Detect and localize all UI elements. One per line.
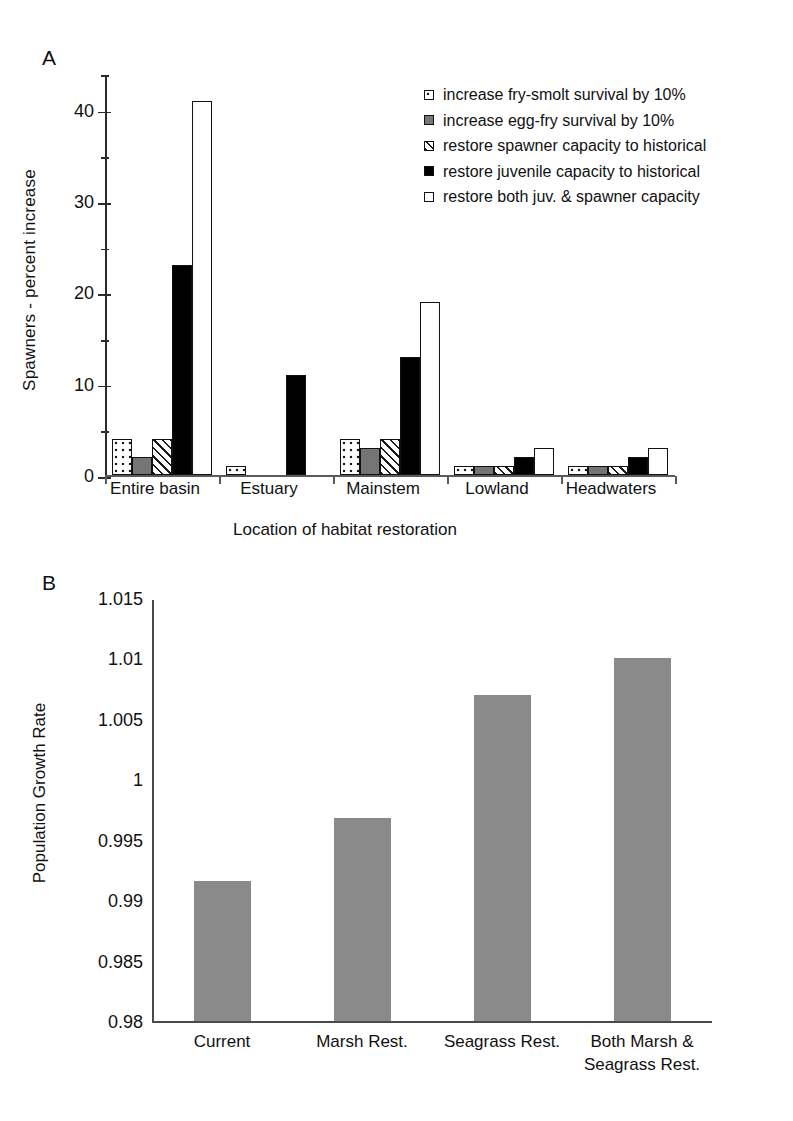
panel-b-category-label: Seagrass Rest. bbox=[427, 1030, 577, 1053]
panel-a-bar bbox=[132, 457, 152, 475]
panel-a-category-label: Entire basin bbox=[98, 479, 212, 499]
panel-a-category-label: Estuary bbox=[212, 479, 326, 499]
panel-b-plot-area: 0.980.9850.990.99511.0051.011.015 Curren… bbox=[152, 600, 712, 1023]
panel-b-bar-group: Seagrass Rest. bbox=[432, 600, 572, 1021]
legend-item: restore both juv. & spawner capacity bbox=[424, 184, 706, 210]
panel-a-bar bbox=[534, 448, 554, 475]
panel-b-category-label-line: Seagrass Rest. bbox=[567, 1053, 717, 1076]
panel-b-category-label-line: Seagrass Rest. bbox=[427, 1030, 577, 1053]
panel-a-y-axis-title: Spawners - percent increase bbox=[20, 115, 40, 445]
panel-b-bar bbox=[334, 818, 391, 1021]
panel-a-bar-group: Estuary bbox=[219, 75, 333, 475]
panel-b-y-tick-label: 1 bbox=[133, 770, 143, 791]
panel-a-bar bbox=[172, 265, 192, 475]
legend-item-label: increase fry-smolt survival by 10% bbox=[443, 82, 686, 108]
legend-item-label: increase egg-fry survival by 10% bbox=[443, 108, 674, 134]
panel-b-y-tick-label: 0.995 bbox=[98, 831, 143, 852]
panel-a-bar bbox=[380, 439, 400, 476]
panel-a-bar bbox=[226, 466, 246, 475]
panel-a-x-axis-line bbox=[105, 475, 675, 477]
panel-a-bar bbox=[152, 439, 172, 476]
panel-b-y-tick-label: 1.005 bbox=[98, 710, 143, 731]
panel-a-bar bbox=[340, 439, 360, 476]
legend-swatch-icon bbox=[424, 192, 434, 202]
panel-b-bar-chart: B Population Growth Rate 0.980.9850.990.… bbox=[0, 548, 793, 1121]
panel-b-y-axis-title: Population Growth Rate bbox=[30, 628, 50, 958]
panel-a-bar bbox=[608, 466, 628, 475]
panel-b-x-axis-line bbox=[152, 1021, 712, 1023]
panel-a-bar bbox=[454, 466, 474, 475]
legend-item-label: restore juvenile capacity to historical bbox=[443, 159, 700, 185]
panel-a-x-axis-title: Location of habitat restoration bbox=[130, 520, 560, 540]
legend-item-label: restore both juv. & spawner capacity bbox=[443, 184, 700, 210]
panel-b-y-tick-label: 0.99 bbox=[108, 891, 143, 912]
panel-b-y-tick-label: 0.985 bbox=[98, 952, 143, 973]
legend-swatch-icon bbox=[424, 115, 434, 125]
panel-a-bar bbox=[628, 457, 648, 475]
panel-a-category-label: Headwaters bbox=[554, 479, 668, 499]
panel-b-category-label-line: Current bbox=[147, 1030, 297, 1053]
legend-item: restore juvenile capacity to historical bbox=[424, 159, 706, 185]
panel-b-category-label-line: Marsh Rest. bbox=[287, 1030, 437, 1053]
panel-b-bar-group: Current bbox=[152, 600, 292, 1021]
panel-b-category-label: Current bbox=[147, 1030, 297, 1053]
panel-a-bar bbox=[514, 457, 534, 475]
panel-a-y-tick-label: 40 bbox=[74, 101, 94, 122]
panel-b-y-tick-label: 1.015 bbox=[98, 589, 143, 610]
legend-item: increase fry-smolt survival by 10% bbox=[424, 82, 706, 108]
panel-a-grouped-bar-chart: A Spawners - percent increase Location o… bbox=[0, 0, 793, 560]
panel-b-category-label: Marsh Rest. bbox=[287, 1030, 437, 1053]
panel-a-bar bbox=[648, 448, 668, 475]
legend-item-label: restore spawner capacity to historical bbox=[443, 133, 706, 159]
panel-b-y-tick-label: 0.98 bbox=[108, 1012, 143, 1033]
panel-a-bar bbox=[568, 466, 588, 475]
panel-a-y-tick-label: 10 bbox=[74, 375, 94, 396]
panel-a-y-tick-label: 30 bbox=[74, 192, 94, 213]
legend-item: increase egg-fry survival by 10% bbox=[424, 108, 706, 134]
panel-a-bar bbox=[588, 466, 608, 475]
panel-a-bar-group: Entire basin bbox=[105, 75, 219, 475]
panel-a-y-tick-label: 20 bbox=[74, 283, 94, 304]
panel-b-category-label-line: Both Marsh & bbox=[567, 1030, 717, 1053]
panel-a-label: A bbox=[42, 46, 56, 70]
panel-a-bar bbox=[286, 375, 306, 476]
panel-a-category-label: Mainstem bbox=[326, 479, 440, 499]
panel-a-bar bbox=[112, 439, 132, 476]
legend-swatch-icon bbox=[424, 166, 434, 176]
panel-b-bar bbox=[614, 658, 671, 1021]
panel-b-bar bbox=[474, 695, 531, 1021]
panel-a-category-label: Lowland bbox=[440, 479, 554, 499]
panel-b-bar-groups: CurrentMarsh Rest.Seagrass Rest.Both Mar… bbox=[152, 600, 712, 1021]
panel-a-y-tick-label: 0 bbox=[84, 466, 94, 487]
panel-a-x-tick bbox=[675, 476, 677, 484]
legend-item: restore spawner capacity to historical bbox=[424, 133, 706, 159]
panel-a-bar bbox=[360, 448, 380, 475]
panel-a-bar bbox=[192, 101, 212, 476]
legend-swatch-icon bbox=[424, 90, 434, 100]
panel-a-bar bbox=[400, 357, 420, 476]
panel-b-bar-group: Both Marsh &Seagrass Rest. bbox=[572, 600, 712, 1021]
panel-b-bar bbox=[194, 881, 251, 1022]
panel-a-bar bbox=[474, 466, 494, 475]
panel-a-bar bbox=[420, 302, 440, 476]
panel-a-bar bbox=[494, 466, 514, 475]
panel-b-category-label: Both Marsh &Seagrass Rest. bbox=[567, 1030, 717, 1076]
panel-b-bar-group: Marsh Rest. bbox=[292, 600, 432, 1021]
panel-b-label: B bbox=[42, 571, 56, 595]
legend-swatch-icon bbox=[424, 141, 434, 151]
panel-b-y-tick-label: 1.01 bbox=[108, 650, 143, 671]
panel-a-legend: increase fry-smolt survival by 10%increa… bbox=[424, 82, 706, 210]
